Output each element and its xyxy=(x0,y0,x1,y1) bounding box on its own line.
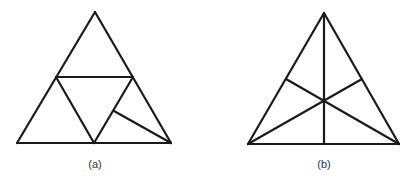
diagram-canvas xyxy=(0,0,417,178)
figure-a-triangle-subdivision xyxy=(17,12,171,143)
figure-b-triangle-medians xyxy=(248,13,399,144)
figure-a-label: (a) xyxy=(88,158,101,170)
figure-b-label: (b) xyxy=(317,158,330,170)
segment-line xyxy=(56,77,94,143)
segment-line xyxy=(94,77,133,143)
